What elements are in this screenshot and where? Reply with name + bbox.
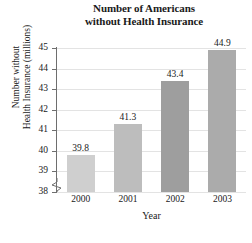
y-axis-tick — [52, 192, 57, 193]
bar-value-label: 41.3 — [108, 113, 148, 123]
y-axis-tick-label: 38 — [28, 187, 48, 197]
bar — [114, 124, 142, 192]
chart-title-line-2: without Health Insurance — [40, 15, 248, 28]
y-axis-tick-label: 39 — [28, 166, 48, 176]
y-axis-tick-label: 41 — [28, 125, 48, 135]
y-axis-tick-label: 43 — [28, 84, 48, 94]
y-axis-tick-label: 45 — [28, 43, 48, 53]
bar-value-label: 44.9 — [202, 39, 242, 49]
bar-chart: Number of Americans without Health Insur… — [0, 0, 252, 243]
chart-title: Number of Americans without Health Insur… — [40, 2, 248, 27]
y-axis-tick — [52, 171, 57, 172]
bar-value-label: 43.4 — [155, 70, 195, 80]
bar — [67, 155, 95, 192]
x-axis-label: Year — [57, 210, 246, 221]
y-axis-tick — [52, 48, 57, 49]
bar — [161, 81, 189, 192]
gridline — [57, 192, 246, 193]
y-axis-tick-label: 44 — [28, 64, 48, 74]
x-axis-tick-label: 2001 — [108, 195, 148, 205]
x-axis-tick-label: 2003 — [202, 195, 242, 205]
bar-value-label: 39.8 — [61, 144, 101, 154]
y-axis-tick — [52, 151, 57, 152]
y-axis-tick — [52, 69, 57, 70]
y-axis-tick — [52, 130, 57, 131]
x-axis-tick-label: 2002 — [155, 195, 195, 205]
plot-area — [57, 48, 246, 192]
y-axis-tick-label: 42 — [28, 105, 48, 115]
bar — [208, 50, 236, 192]
x-axis-tick-label: 2000 — [61, 195, 101, 205]
y-axis-tick — [52, 89, 57, 90]
y-axis-tick — [52, 110, 57, 111]
chart-title-line-1: Number of Americans — [40, 2, 248, 15]
y-axis-label-line-1: Number without — [11, 25, 23, 129]
y-axis-tick-label: 40 — [28, 146, 48, 156]
